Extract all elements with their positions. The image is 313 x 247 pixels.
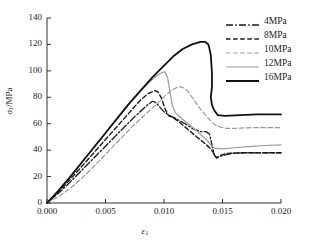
legend-item-4mpa[interactable]: 4MPa [226,14,312,28]
x-tick-label: 0.010 [144,206,184,216]
legend-key-icon [226,30,259,40]
legend-key-icon [226,44,259,54]
figure-stress-strain-chart: σ1/MPa ε1 4MPa8MPa10MPa12MPa16MPa 020406… [0,0,313,247]
y-tick-label: 100 [6,65,42,75]
x-axis-title: ε1 [125,226,165,236]
y-tick-label: 140 [6,12,42,22]
legend-item-10mpa[interactable]: 10MPa [226,42,312,56]
y-tick-label: 60 [6,118,42,128]
y-axis-title-symbol: σ [4,110,14,114]
y-tick-label: 40 [6,144,42,154]
x-axis-title-subscript: 1 [145,229,148,236]
x-tick-label: 0.020 [261,206,301,216]
legend-key-icon [226,72,259,82]
y-tick-label: 120 [6,38,42,48]
legend-label: 10MPa [264,44,291,54]
x-tick-label: 0.005 [86,206,126,216]
series-line-12mpa [47,72,281,203]
chart-legend: 4MPa8MPa10MPa12MPa16MPa [226,14,312,84]
legend-label: 8MPa [264,30,287,40]
legend-item-8mpa[interactable]: 8MPa [226,28,312,42]
legend-key-icon [226,58,259,68]
y-tick-label: 20 [6,171,42,181]
y-axis-title-subscript: 1 [7,107,14,110]
legend-item-16mpa[interactable]: 16MPa [226,70,312,84]
legend-label: 12MPa [264,58,291,68]
y-tick-label: 80 [6,91,42,101]
legend-label: 4MPa [264,16,287,26]
legend-item-12mpa[interactable]: 12MPa [226,56,312,70]
legend-key-icon [226,16,259,26]
x-tick-label: 0.015 [203,206,243,216]
legend-label: 16MPa [264,72,291,82]
x-tick-label: 0.000 [27,206,67,216]
